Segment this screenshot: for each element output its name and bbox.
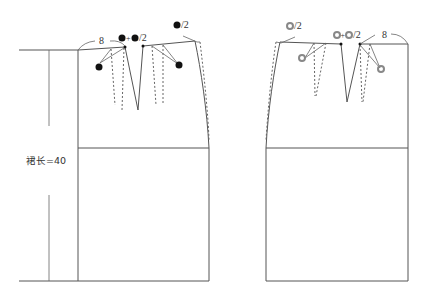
back-ease-connector-left (360, 35, 375, 44)
front-dart-a-pointer (100, 48, 124, 63)
skirt-length-label: 裙长=40 (26, 155, 66, 166)
back-dart-b-leg-1 (360, 45, 362, 102)
back-side-ease-label: 8 (382, 29, 387, 40)
front-center-dart-fraction: /2 (139, 32, 147, 43)
front-side-seam-curve (195, 41, 209, 148)
front-panel: 8 + /2 /2 裙长=40 (19, 19, 209, 281)
front-dot-symbol-1 (119, 35, 126, 42)
back-ring-marker-right (378, 66, 384, 72)
back-ring-marker-left (299, 55, 305, 61)
back-ring-symbol-3 (346, 32, 352, 38)
front-dot-symbol-3 (174, 22, 181, 29)
back-dart-node-left (340, 43, 343, 46)
front-side-dart-fraction: /2 (181, 19, 189, 30)
front-center-dart (125, 46, 143, 110)
back-ring-symbol-1 (287, 23, 293, 29)
front-dot-marker-left (96, 64, 103, 71)
front-ease-arc-right (110, 41, 125, 46)
back-center-dart (341, 44, 360, 102)
pattern-diagram: 8 + /2 /2 裙长=40 (0, 0, 425, 299)
front-side-ease-label: 8 (99, 35, 104, 46)
back-center-dart-fraction: /2 (353, 29, 361, 40)
front-dart-a-leg-2 (122, 48, 124, 110)
front-dart-node-right (142, 45, 145, 48)
back-dart-b-pointer (360, 44, 380, 68)
back-ring-symbol-2 (334, 32, 340, 38)
back-panel: /2 + /2 8 (266, 20, 408, 281)
front-waist-segment-2 (143, 41, 195, 46)
back-side-dart-fraction: /2 (294, 20, 302, 31)
front-waist-segment-1 (78, 47, 125, 50)
front-plus-sign: + (126, 34, 131, 43)
back-dart-a-leg-2 (316, 43, 326, 96)
back-ease-arc-right (391, 34, 408, 44)
back-side-seam-curve (266, 42, 280, 148)
front-dart-a-leg-1 (111, 49, 115, 105)
front-dart-b-pointer (152, 45, 178, 64)
back-dart-a-pointer (305, 43, 326, 58)
back-waist-segment-1 (280, 42, 341, 44)
front-dart-b-leg-1 (152, 46, 156, 105)
front-dot-symbol-2 (132, 35, 139, 42)
front-dot-marker-right (176, 62, 183, 69)
back-plus-sign: + (341, 31, 346, 40)
